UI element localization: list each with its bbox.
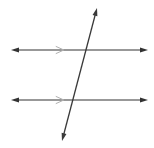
- canvas-background: [0, 0, 154, 148]
- geometry-figure: [0, 0, 154, 148]
- geometry-canvas: [0, 0, 154, 148]
